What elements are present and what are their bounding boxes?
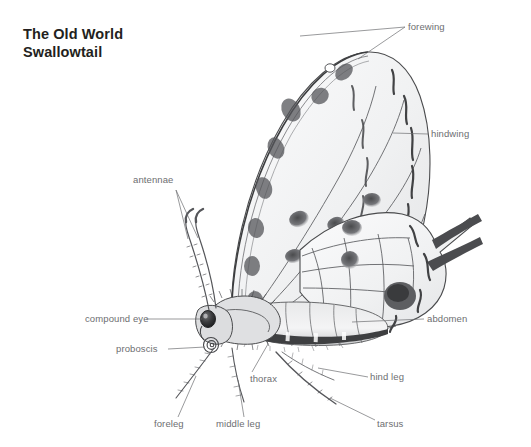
label-antennae: antennae [133,174,173,185]
label-foreleg: foreleg [154,418,184,429]
label-compound-eye: compound eye [85,313,149,324]
label-hind-leg: hind leg [370,371,404,382]
label-thorax: thorax [250,373,277,384]
label-proboscis: proboscis [116,343,158,354]
antennae-shape [186,209,216,310]
label-abdomen: abdomen [427,313,467,324]
compound-eye-shape [201,311,216,328]
label-tarsus: tarsus [377,418,403,429]
label-middle-leg: middle leg [216,418,260,429]
label-forewing: forewing [408,21,445,32]
label-hindwing: hindwing [431,128,469,139]
illustration-page: The Old World Swallowtail [0,0,531,447]
